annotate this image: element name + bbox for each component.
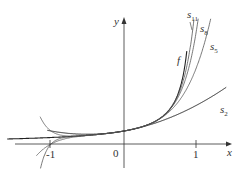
label-s8: s8 bbox=[200, 22, 208, 37]
label-s11: s11 bbox=[187, 8, 199, 23]
curve-f bbox=[7, 51, 187, 139]
y-axis-arrow-icon bbox=[122, 17, 127, 24]
curve-s8 bbox=[40, 19, 198, 136]
y-axis-label: y bbox=[113, 15, 119, 27]
label-s2: s2 bbox=[220, 103, 228, 118]
label-f: f bbox=[177, 54, 182, 66]
tick-label-one: 1 bbox=[193, 148, 199, 160]
curve-s2 bbox=[47, 87, 226, 134]
tick-label-minus-one: -1 bbox=[46, 148, 55, 160]
taylor-series-diagram: x y 0 -1 1 f s2 s5 s8 s11 bbox=[0, 0, 244, 177]
s11-pointer bbox=[190, 22, 192, 30]
curves-group bbox=[7, 19, 226, 169]
origin-label: 0 bbox=[113, 147, 119, 159]
label-s5: s5 bbox=[210, 40, 218, 55]
x-axis-label: x bbox=[226, 146, 232, 158]
